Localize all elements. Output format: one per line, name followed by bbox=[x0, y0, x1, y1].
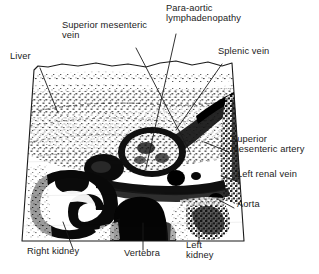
right-flank-texture bbox=[26, 186, 52, 238]
label-superior-mesenteric-vein: Superior mesenteric vein bbox=[62, 20, 147, 41]
ultrasound-figure: Liver Superior mesenteric vein Para-aort… bbox=[0, 0, 319, 274]
label-para-aortic-lymphadenopathy: Para-aortic lymphadenopathy bbox=[166, 3, 241, 24]
label-liver: Liver bbox=[10, 51, 31, 61]
label-vertebra: Vertebra bbox=[124, 248, 160, 258]
label-left-kidney: Left kidney bbox=[186, 240, 213, 261]
label-right-kidney: Right kidney bbox=[27, 246, 79, 256]
superior-mesenteric-vein-lumen bbox=[191, 172, 201, 180]
para-aortic-node-mass bbox=[118, 127, 186, 177]
label-splenic-vein: Splenic vein bbox=[218, 46, 269, 56]
label-aorta: Aorta bbox=[237, 199, 260, 209]
label-left-renal-vein: Left renal vein bbox=[237, 169, 297, 179]
label-superior-mesenteric-artery: Superior mesenteric artery bbox=[231, 134, 305, 155]
superior-mesenteric-artery-lumen bbox=[167, 170, 185, 186]
